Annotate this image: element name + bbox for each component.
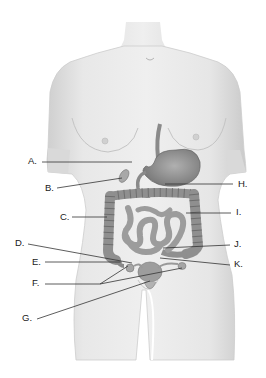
torso-illustration (0, 0, 266, 378)
uterus (138, 262, 162, 282)
anatomy-diagram: A. B. C. D. E. F. G. H. I. J. K. (0, 0, 266, 378)
label-h: H. (238, 179, 248, 189)
label-b: B. (45, 183, 54, 193)
label-f: F. (32, 278, 39, 288)
label-i: I. (236, 207, 241, 217)
ovary-right (126, 264, 134, 272)
label-a: A. (28, 156, 37, 166)
label-k: K. (234, 259, 243, 269)
label-d: D. (15, 238, 25, 248)
label-e: E. (32, 257, 41, 267)
sigmoid-colon (162, 252, 186, 255)
label-j: J. (234, 239, 241, 249)
label-c: C. (60, 212, 70, 222)
label-g: G. (22, 313, 32, 323)
